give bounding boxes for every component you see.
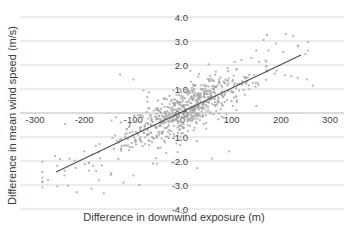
scatter-point [213, 91, 215, 93]
scatter-point [198, 95, 200, 97]
scatter-point [165, 115, 167, 117]
scatter-point [255, 105, 257, 107]
scatter-point [213, 88, 215, 90]
scatter-point [164, 112, 166, 114]
scatter-point [120, 122, 122, 124]
scatter-point [92, 165, 94, 167]
scatter-point [153, 138, 155, 140]
scatter-point [103, 193, 105, 195]
scatter-point [153, 110, 155, 112]
scatter-point [241, 59, 243, 61]
scatter-point [221, 104, 223, 106]
scatter-point [177, 122, 179, 124]
scatter-point [173, 125, 175, 127]
scatter-point [169, 95, 171, 97]
scatter-point [214, 74, 216, 76]
scatter-point [198, 109, 200, 111]
scatter-point [64, 123, 66, 125]
scatter-point [165, 121, 167, 123]
scatter-point [297, 45, 299, 47]
scatter-point [182, 97, 184, 99]
scatter-point [95, 145, 97, 147]
scatter-point [193, 90, 195, 92]
scatter-point [255, 50, 257, 52]
scatter-point [172, 111, 174, 113]
scatter-point [236, 101, 238, 103]
scatter-point [180, 136, 182, 138]
scatter-point [192, 99, 194, 101]
scatter-plot-canvas: -300-200-10001002003004.03.02.01.00.0-1.… [0, 0, 348, 240]
scatter-point [110, 172, 112, 174]
scatter-point [146, 101, 148, 103]
scatter-point [265, 79, 267, 81]
scatter-point [111, 137, 113, 139]
scatter-point [204, 96, 206, 98]
scatter-point [305, 53, 307, 55]
scatter-point [204, 93, 206, 95]
scatter-point [133, 137, 135, 139]
scatter-point [297, 77, 299, 79]
scatter-point [165, 152, 167, 154]
scatter-point [203, 123, 205, 125]
y-tick-label: -2.0 [172, 156, 188, 167]
scatter-point [119, 139, 121, 141]
scatter-point [234, 61, 236, 63]
scatter-point [173, 119, 175, 121]
scatter-point [168, 122, 170, 124]
scatter-point [194, 112, 196, 114]
scatter-point [210, 92, 212, 94]
scatter-point [144, 143, 146, 145]
scatter-point [268, 50, 270, 52]
scatter-point [218, 82, 220, 84]
scatter-point [143, 132, 145, 134]
scatter-point [177, 102, 179, 104]
scatter-point [204, 108, 206, 110]
scatter-point [144, 136, 146, 138]
scatter-point [209, 75, 211, 77]
scatter-point [163, 127, 165, 129]
y-axis-title: Difference in mean wind speed (m/s) [4, 2, 19, 230]
scatter-point [151, 141, 153, 143]
scatter-point [178, 94, 180, 96]
scatter-point [238, 90, 240, 92]
scatter-point [210, 80, 212, 82]
scatter-point [194, 118, 196, 120]
scatter-point [142, 115, 144, 117]
scatter-point [150, 132, 152, 134]
scatter-point [197, 113, 199, 115]
scatter-point [148, 107, 150, 109]
scatter-point [125, 144, 127, 146]
scatter-point [160, 112, 162, 114]
scatter-point [211, 78, 213, 80]
scatter-point [228, 78, 230, 80]
scatter-point [84, 163, 86, 165]
scatter-point [196, 140, 198, 142]
scatter-point [199, 115, 201, 117]
scatter-point [173, 90, 175, 92]
scatter-point [179, 144, 181, 146]
scatter-point [206, 106, 208, 108]
scatter-point [193, 94, 195, 96]
scatter-point [98, 143, 100, 145]
scatter-point [173, 133, 175, 135]
scatter-point [190, 70, 192, 72]
scatter-point [168, 129, 170, 131]
scatter-point [186, 92, 188, 94]
scatter-point [189, 125, 191, 127]
scatter-point [274, 73, 276, 75]
scatter-point [233, 84, 235, 86]
scatter-point [140, 136, 142, 138]
scatter-point [217, 102, 219, 104]
scatter-point [187, 124, 189, 126]
scatter-point [183, 104, 185, 106]
scatter-point [158, 115, 160, 117]
scatter-point [170, 100, 172, 102]
scatter-point [198, 73, 200, 75]
scatter-point [205, 114, 207, 116]
scatter-point [149, 140, 151, 142]
scatter-point [177, 132, 179, 134]
scatter-point [95, 170, 97, 172]
scatter-point [160, 147, 162, 149]
scatter-point [187, 113, 189, 115]
scatter-point [173, 104, 175, 106]
